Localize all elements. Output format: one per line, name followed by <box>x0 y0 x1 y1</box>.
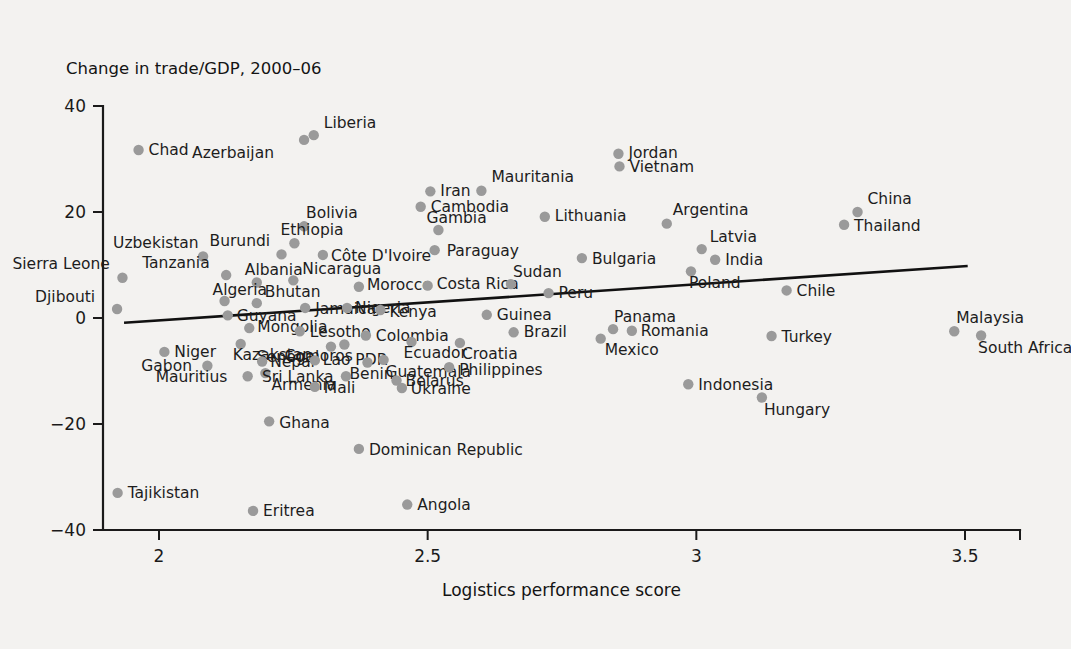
data-point[interactable]: India <box>710 251 763 269</box>
point-marker[interactable] <box>476 186 486 196</box>
point-marker[interactable] <box>508 327 518 337</box>
point-marker[interactable] <box>614 161 624 171</box>
point-marker[interactable] <box>133 145 143 155</box>
point-label: Vietnam <box>629 158 694 176</box>
data-point[interactable]: Lithuania <box>540 207 627 225</box>
point-marker[interactable] <box>540 212 550 222</box>
point-marker[interactable] <box>577 253 587 263</box>
data-point[interactable]: Bulgaria <box>577 250 656 268</box>
point-marker[interactable] <box>318 250 328 260</box>
point-marker[interactable] <box>264 416 274 426</box>
point-marker[interactable] <box>949 326 959 336</box>
point-marker[interactable] <box>425 186 435 196</box>
point-marker[interactable] <box>402 499 412 509</box>
data-point[interactable]: Turkey <box>766 328 832 346</box>
point-marker[interactable] <box>397 383 407 393</box>
data-point[interactable]: Tajikistan <box>112 484 199 502</box>
data-point[interactable]: Dominican Republic <box>354 441 523 459</box>
data-point[interactable]: Sudan <box>506 263 562 290</box>
point-marker[interactable] <box>117 273 127 283</box>
data-point[interactable]: Costa Rica <box>422 275 518 293</box>
point-marker[interactable] <box>342 303 352 313</box>
data-point[interactable]: Paraguay <box>429 242 519 260</box>
point-marker[interactable] <box>299 135 309 145</box>
point-marker[interactable] <box>543 288 553 298</box>
point-marker[interactable] <box>710 255 720 265</box>
point-marker[interactable] <box>221 270 231 280</box>
data-point[interactable]: Mali <box>310 379 356 397</box>
data-point[interactable]: Tanzania <box>141 254 231 281</box>
point-marker[interactable] <box>766 331 776 341</box>
point-marker[interactable] <box>309 130 319 140</box>
data-point[interactable]: Malaysia <box>949 309 1024 337</box>
data-point[interactable]: Gambia <box>426 209 486 236</box>
data-point[interactable]: Eritrea <box>248 502 315 520</box>
point-marker[interactable] <box>429 245 439 255</box>
point-marker[interactable] <box>244 323 254 333</box>
point-marker[interactable] <box>415 202 425 212</box>
point-marker[interactable] <box>276 249 286 259</box>
data-point[interactable]: Morocco <box>354 276 432 294</box>
data-point[interactable]: Ethiopia <box>280 221 343 249</box>
data-point[interactable]: China <box>852 190 911 218</box>
data-point[interactable]: Chile <box>781 282 835 300</box>
point-marker[interactable] <box>697 244 707 254</box>
data-point[interactable]: Iran <box>425 182 470 200</box>
data-point[interactable]: Liberia <box>309 114 377 141</box>
data-point[interactable]: Indonesia <box>683 376 773 394</box>
point-marker[interactable] <box>781 285 791 295</box>
y-tick-label-1: 20 <box>64 202 86 222</box>
point-marker[interactable] <box>354 444 364 454</box>
data-point[interactable]: Chad <box>133 141 188 159</box>
x-tick-label-2: 3 <box>691 546 702 566</box>
data-point[interactable]: Azerbaijan <box>192 135 309 163</box>
data-point[interactable]: Mauritius <box>156 368 253 386</box>
point-label: Mauritius <box>156 368 228 386</box>
point-marker[interactable] <box>354 282 364 292</box>
data-point[interactable]: Ghana <box>264 414 330 432</box>
point-label: Malaysia <box>956 309 1024 327</box>
point-marker[interactable] <box>839 220 849 230</box>
point-marker[interactable] <box>289 238 299 248</box>
point-label: Turkey <box>781 328 832 346</box>
data-point[interactable]: Brazil <box>508 323 566 341</box>
y-tick-label-2: 0 <box>75 308 86 328</box>
data-point[interactable]: Guinea <box>482 306 552 324</box>
data-point[interactable]: Argentina <box>662 201 749 229</box>
data-point[interactable]: Mauritania <box>476 168 574 196</box>
point-marker[interactable] <box>159 347 169 357</box>
point-marker[interactable] <box>223 310 233 320</box>
data-point[interactable]: South Africa <box>976 330 1071 357</box>
point-marker[interactable] <box>257 356 267 366</box>
data-point[interactable]: Vietnam <box>614 158 694 176</box>
data-point[interactable]: Sierra Leone <box>12 255 127 283</box>
data-point[interactable]: Peru <box>543 284 593 302</box>
point-marker[interactable] <box>375 305 385 315</box>
point-marker[interactable] <box>662 218 672 228</box>
point-marker[interactable] <box>422 280 432 290</box>
point-marker[interactable] <box>310 382 320 392</box>
data-point[interactable]: Hungary <box>757 392 830 419</box>
point-marker[interactable] <box>683 379 693 389</box>
point-marker[interactable] <box>613 149 623 159</box>
data-point[interactable]: Poland <box>686 266 741 292</box>
point-marker[interactable] <box>627 326 637 336</box>
point-marker[interactable] <box>248 506 258 516</box>
point-marker[interactable] <box>112 304 122 314</box>
point-marker[interactable] <box>482 310 492 320</box>
point-marker[interactable] <box>242 371 252 381</box>
point-marker[interactable] <box>112 488 122 498</box>
data-point[interactable]: Croatia <box>455 338 518 364</box>
point-label: Iran <box>440 182 470 200</box>
point-marker[interactable] <box>310 355 320 365</box>
point-marker[interactable] <box>295 326 305 336</box>
point-marker[interactable] <box>444 362 454 372</box>
data-point[interactable]: Angola <box>402 496 471 514</box>
data-point[interactable]: Colombia <box>361 327 449 345</box>
point-marker[interactable] <box>852 207 862 217</box>
data-point[interactable]: Thailand <box>839 217 921 235</box>
y-tick-label-4: −40 <box>50 520 86 540</box>
point-marker[interactable] <box>300 303 310 313</box>
data-point[interactable]: Burundi <box>210 232 287 260</box>
point-marker[interactable] <box>361 330 371 340</box>
